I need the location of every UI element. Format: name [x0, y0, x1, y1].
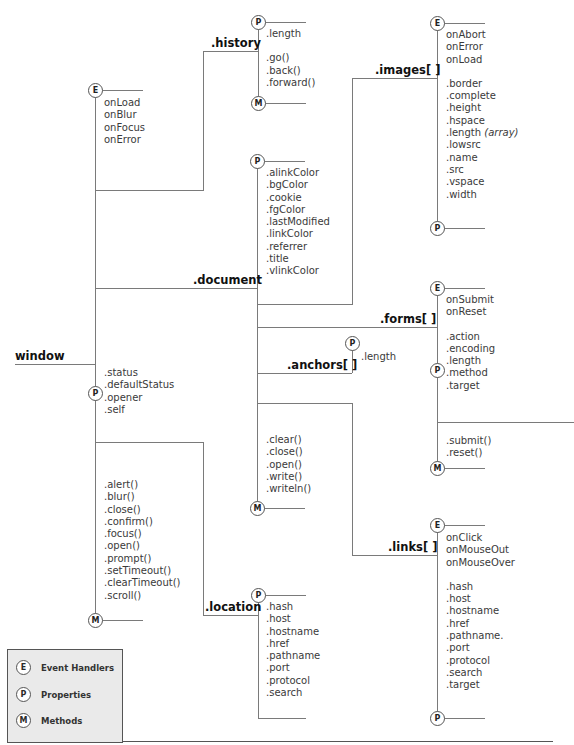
property-item: .lastModified: [266, 216, 330, 228]
event-item: onAbort: [446, 29, 518, 41]
property-item: .status: [104, 367, 174, 379]
legend-label: Methods: [41, 716, 82, 726]
document-properties-list: .alinkColor .bgColor .cookie .fgColor .l…: [266, 167, 330, 278]
history-connector: [203, 51, 258, 52]
method-item: .go(): [266, 52, 315, 64]
history-label: .history: [211, 36, 261, 50]
property-item: .port: [266, 662, 320, 674]
event-item: onLoad: [446, 54, 518, 66]
images-trunk: [437, 23, 438, 228]
property-item: .protocol: [446, 655, 515, 667]
method-marker-icon: M: [88, 613, 103, 628]
legend-label: Properties: [41, 690, 91, 700]
method-item: .close(): [266, 446, 311, 458]
history-branch-line: [95, 190, 203, 191]
links-branch-drop: [352, 403, 353, 555]
location-branch-drop: [203, 442, 204, 615]
location-connector: [203, 615, 258, 616]
legend-item-events: E Event Handlers: [16, 660, 114, 675]
event-item: onError: [104, 134, 145, 146]
property-item: .href: [446, 618, 515, 630]
method-item: .reset(): [446, 447, 491, 459]
method-item: .blur(): [104, 491, 181, 503]
property-item: .vspace: [446, 176, 518, 188]
property-item: .lowsrc: [446, 139, 518, 151]
forms-members-list: onSubmit onReset .action .encoding .leng…: [446, 294, 495, 392]
legend-label: Event Handlers: [41, 663, 114, 673]
links-members-list: onClick onMouseOut onMouseOver .hash .ho…: [446, 532, 515, 692]
event-marker-icon: E: [88, 83, 103, 98]
event-item: onError: [446, 41, 518, 53]
property-item: .hostname: [446, 605, 515, 617]
property-item: .hash: [446, 581, 515, 593]
property-item: .vlinkColor: [266, 265, 330, 277]
history-branch-riser: [203, 51, 204, 191]
event-item: onMouseOut: [446, 544, 515, 556]
forms-methods-list: .submit() .reset(): [446, 435, 491, 460]
links-branch-top: [257, 403, 352, 404]
history-trunk: [258, 22, 259, 103]
array-note: (array): [484, 127, 518, 138]
method-item: .setTimeout(): [104, 565, 181, 577]
property-item: .target: [446, 380, 495, 392]
event-marker-icon: E: [16, 660, 31, 675]
property-marker-icon: P: [16, 687, 31, 702]
method-item: .submit(): [446, 435, 491, 447]
property-item: .hash: [266, 601, 320, 613]
method-marker-icon: M: [16, 713, 31, 728]
property-item: .hspace: [446, 115, 518, 127]
forms-trunk: [437, 288, 438, 468]
method-item: .alert(): [104, 479, 181, 491]
method-item: .scroll(): [104, 590, 181, 602]
property-item: .self: [104, 404, 174, 416]
images-branch-line: [257, 304, 352, 305]
method-item: .writeln(): [266, 483, 311, 495]
property-marker-icon: P: [430, 711, 445, 726]
forms-label: .forms[ ]: [380, 312, 436, 326]
property-item: .length: [361, 351, 396, 363]
property-item: .border: [446, 78, 518, 90]
method-item: .close(): [104, 504, 181, 516]
property-item: .hostname: [266, 626, 320, 638]
property-item: .protocol: [266, 675, 320, 687]
event-item: onReset: [446, 306, 495, 318]
anchors-label: .anchors[ ]: [287, 358, 357, 372]
property-item: .length: [266, 28, 315, 40]
property-marker-icon: P: [250, 154, 265, 169]
property-item: .cookie: [266, 192, 330, 204]
property-item: .host: [446, 593, 515, 605]
window-root-line: [15, 364, 95, 365]
anchors-branch-line: [257, 373, 352, 374]
method-item: .clear(): [266, 434, 311, 446]
property-marker-icon: P: [88, 386, 103, 401]
window-label: window: [15, 349, 65, 363]
method-marker-icon: M: [430, 461, 445, 476]
images-branch-riser: [352, 78, 353, 305]
property-item: .title: [266, 253, 330, 265]
forms-divider: [437, 422, 574, 423]
property-item: .width: [446, 189, 518, 201]
event-item: onBlur: [104, 109, 145, 121]
property-item: .search: [266, 687, 320, 699]
method-item: .prompt(): [104, 553, 181, 565]
property-item: .href: [266, 638, 320, 650]
property-item: .target: [446, 679, 515, 691]
legend: E Event Handlers P Properties M Methods: [7, 649, 123, 743]
property-item: .host: [266, 613, 320, 625]
property-item: .method: [446, 367, 495, 379]
property-item: .referrer: [266, 241, 330, 253]
images-members-list: onAbort onError onLoad .border .complete…: [446, 29, 518, 201]
event-marker-icon: E: [430, 518, 445, 533]
property-item: .action: [446, 331, 495, 343]
property-item: .pathname: [266, 650, 320, 662]
method-item: .clearTimeout(): [104, 577, 181, 589]
event-item: onSubmit: [446, 294, 495, 306]
document-label: .document: [193, 273, 262, 287]
property-item: .length (array): [446, 127, 518, 139]
method-item: .open(): [266, 459, 311, 471]
method-item: .focus(): [104, 528, 181, 540]
property-marker-icon: P: [251, 15, 266, 30]
property-item: .pathname.: [446, 630, 515, 642]
window-properties-list: .status .defaultStatus .opener .self: [104, 367, 174, 416]
method-item: .back(): [266, 65, 315, 77]
